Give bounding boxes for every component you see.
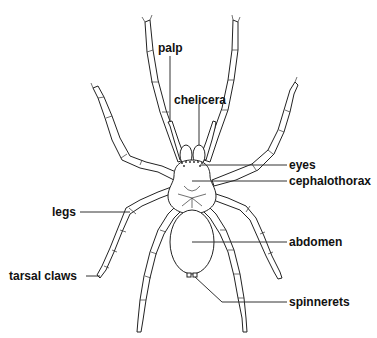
label-legs: legs [52, 205, 76, 219]
label-cephalothorax: cephalothorax [289, 174, 371, 188]
label-abdomen: abdomen [289, 235, 342, 249]
label-spinnerets: spinnerets [289, 295, 350, 309]
leg-right-3 [208, 192, 282, 279]
label-eyes: eyes [289, 158, 316, 172]
cephalothorax-shape [168, 160, 216, 214]
label-palp: palp [158, 41, 183, 55]
leg-left-2 [91, 83, 176, 180]
label-tarsal-claws: tarsal claws [9, 269, 77, 283]
label-chelicera: chelicera [174, 93, 226, 107]
spider-anatomy-diagram: palp chelicera eyes cephalothorax legs a… [0, 0, 377, 338]
